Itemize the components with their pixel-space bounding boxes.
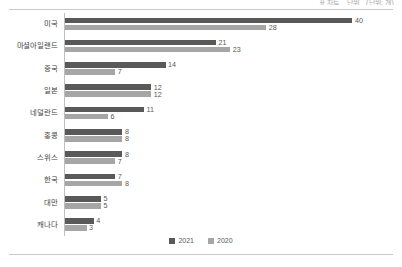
bottom-divider <box>9 254 393 255</box>
header-cut-mid: 단위 <box>347 0 359 5</box>
header-cut-right: (단위: 개) <box>366 0 394 5</box>
bar-item[interactable]: 12 <box>65 91 162 97</box>
bar-2020 <box>65 158 115 164</box>
bar-value-label: 28 <box>269 24 277 31</box>
bar-group: 116 <box>65 102 402 124</box>
category-label: 캐나다 <box>0 221 58 228</box>
bar-row: 중국147 <box>0 58 402 80</box>
bar-2021 <box>65 18 352 24</box>
bar-2020 <box>65 136 122 142</box>
bar-2020 <box>65 47 230 53</box>
bar-group: 2123 <box>65 35 402 57</box>
bar-2021 <box>65 107 144 113</box>
bar-2021 <box>65 40 216 46</box>
bar-item[interactable]: 11 <box>65 107 154 113</box>
legend-item-2021[interactable]: 2021 <box>169 237 194 244</box>
bar-group: 4028 <box>65 13 402 35</box>
bar-group: 43 <box>65 214 402 236</box>
bar-row: 대만55 <box>0 191 402 213</box>
bar-item[interactable]: 21 <box>65 40 226 46</box>
bar-value-label: 8 <box>125 151 129 158</box>
chart-legend: 2021 2020 <box>0 237 402 244</box>
bar-value-label: 8 <box>125 135 129 142</box>
legend-label: 2021 <box>178 237 194 244</box>
top-divider <box>9 9 393 10</box>
bar-2021 <box>65 84 151 90</box>
category-label: 홍콩 <box>0 132 58 139</box>
bar-item[interactable]: 7 <box>65 69 122 75</box>
plot-area: 미국4028마셜아일랜드2123중국147일본1212네덜란드116홍콩88스위… <box>0 13 402 236</box>
bar-row: 일본1212 <box>0 80 402 102</box>
bar-value-label: 12 <box>154 91 162 98</box>
bar-2020 <box>65 69 115 75</box>
bar-group: 88 <box>65 125 402 147</box>
legend-item-2020[interactable]: 2020 <box>208 237 233 244</box>
bar-value-label: 8 <box>125 180 129 187</box>
bar-2021 <box>65 174 115 180</box>
bar-item[interactable]: 7 <box>65 174 122 180</box>
legend-label: 2020 <box>217 237 233 244</box>
category-label: 스위스 <box>0 154 58 161</box>
bar-2020 <box>65 203 101 209</box>
bar-item[interactable]: 4 <box>65 218 100 224</box>
bar-item[interactable]: 8 <box>65 181 129 187</box>
bar-row: 네덜란드116 <box>0 102 402 124</box>
bar-item[interactable]: 23 <box>65 47 241 53</box>
bar-value-label: 7 <box>118 68 122 75</box>
bar-row: 캐나다43 <box>0 214 402 236</box>
bar-group: 55 <box>65 191 402 213</box>
bar-item[interactable]: 8 <box>65 129 129 135</box>
bar-row: 홍콩88 <box>0 125 402 147</box>
bar-2021 <box>65 151 122 157</box>
category-label: 한국 <box>0 177 58 184</box>
header-cut-left: 표 차트 <box>319 0 340 5</box>
bar-2020 <box>65 25 266 31</box>
bar-value-label: 23 <box>233 46 241 53</box>
bar-2020 <box>65 91 151 97</box>
bar-item[interactable]: 12 <box>65 84 162 90</box>
legend-swatch-icon <box>208 238 214 244</box>
bar-group: 1212 <box>65 80 402 102</box>
category-label: 네덜란드 <box>0 110 58 117</box>
category-label: 중국 <box>0 65 58 72</box>
bar-2021 <box>65 129 122 135</box>
category-label: 마셜아일랜드 <box>0 43 58 50</box>
bar-group: 147 <box>65 58 402 80</box>
bar-value-label: 3 <box>89 224 93 231</box>
bar-value-label: 7 <box>118 158 122 165</box>
bar-group: 78 <box>65 169 402 191</box>
header-cut-text: 표 차트 단위 (단위: 개) <box>319 0 394 5</box>
bar-item[interactable]: 5 <box>65 203 107 209</box>
bar-value-label: 7 <box>118 173 122 180</box>
bar-row: 스위스87 <box>0 147 402 169</box>
bar-group: 87 <box>65 147 402 169</box>
bar-value-label: 40 <box>355 17 363 24</box>
bar-2021 <box>65 62 166 68</box>
bar-row: 한국78 <box>0 169 402 191</box>
chart-figure: 표 차트 단위 (단위: 개) 미국4028마셜아일랜드2123중국147일본1… <box>0 0 402 267</box>
bar-value-label: 4 <box>96 217 100 224</box>
bar-item[interactable]: 5 <box>65 196 107 202</box>
bar-2021 <box>65 196 101 202</box>
bar-item[interactable]: 40 <box>65 18 363 24</box>
bar-value-label: 11 <box>147 106 154 113</box>
bar-2020 <box>65 181 122 187</box>
legend-swatch-icon <box>169 238 175 244</box>
bar-item[interactable]: 8 <box>65 136 129 142</box>
bar-value-label: 14 <box>168 61 176 68</box>
category-label: 대만 <box>0 199 58 206</box>
bar-item[interactable]: 28 <box>65 25 277 31</box>
bar-item[interactable]: 3 <box>65 225 93 231</box>
bar-item[interactable]: 7 <box>65 158 122 164</box>
bar-row: 마셜아일랜드2123 <box>0 35 402 57</box>
category-label: 미국 <box>0 20 58 27</box>
bar-item[interactable]: 6 <box>65 114 115 120</box>
bar-value-label: 5 <box>103 202 107 209</box>
bar-value-label: 21 <box>218 39 226 46</box>
bar-row: 미국4028 <box>0 13 402 35</box>
bar-2020 <box>65 114 108 120</box>
category-label: 일본 <box>0 87 58 94</box>
bar-value-label: 6 <box>111 113 115 120</box>
bar-2020 <box>65 225 87 231</box>
